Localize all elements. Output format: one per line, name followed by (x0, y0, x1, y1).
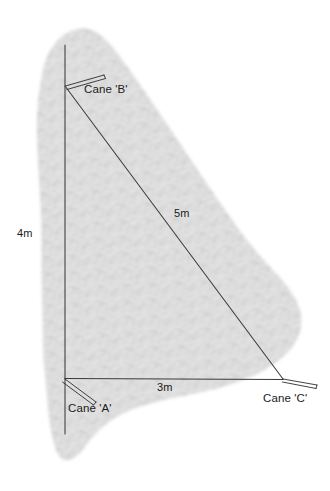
dimension-label-5m: 5m (174, 208, 189, 219)
cane-label-c: Cane 'C' (263, 393, 307, 405)
cane-label-b: Cane 'B' (84, 84, 128, 96)
grass-triangle-figure: 4m 5m 3m Cane 'A' Cane 'B' Cane 'C' (0, 0, 330, 491)
figure-canvas (0, 0, 330, 491)
dimension-label-3m: 3m (157, 382, 172, 393)
dimension-label-4m: 4m (17, 228, 32, 239)
cane-label-a: Cane 'A' (68, 403, 112, 415)
cane-c-marker (283, 379, 318, 389)
